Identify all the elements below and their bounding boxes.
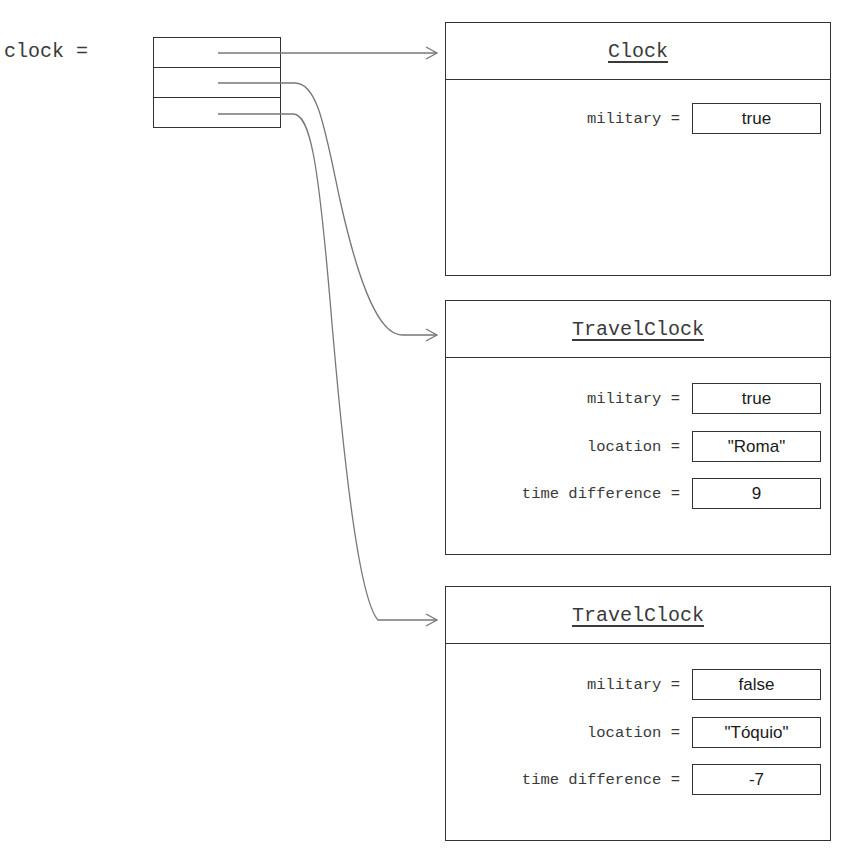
reference-arrows (0, 0, 868, 867)
arrow-to-travelclock-toquio (218, 114, 437, 620)
arrow-to-travelclock-roma (218, 83, 437, 335)
